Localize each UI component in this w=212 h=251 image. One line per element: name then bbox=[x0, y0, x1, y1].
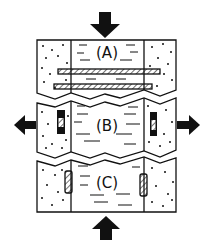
arrow-down-icon bbox=[90, 12, 120, 38]
arrow-up-icon bbox=[92, 216, 120, 240]
arrow-left-icon bbox=[14, 115, 36, 135]
arrow-right-icon bbox=[177, 115, 200, 135]
stress-diagram: (A) (B) (C) bbox=[0, 0, 212, 251]
panel-b-label: (B) bbox=[96, 117, 118, 135]
panel-c-label: (C) bbox=[96, 174, 118, 192]
panel-a-label: (A) bbox=[96, 44, 118, 62]
